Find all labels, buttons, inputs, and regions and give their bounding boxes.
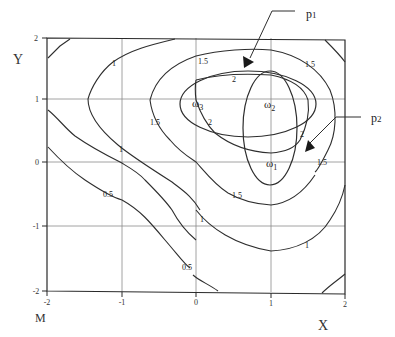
contour-label: 0.5 xyxy=(182,263,192,272)
contour-label: 1 xyxy=(200,215,204,224)
contour-chart: 2 1 0 -1 -2 -2 -1 0 1 2 Y X M xyxy=(0,0,395,337)
p1-annotation: p1 xyxy=(243,7,317,68)
x-tick-neg2: -2 xyxy=(44,298,51,307)
x-tick-neg1: -1 xyxy=(119,298,126,307)
contour-label: 0.5 xyxy=(103,190,113,199)
contour-label: 1.5 xyxy=(305,60,315,69)
x-axis-label: X xyxy=(318,318,328,333)
contour-label: 1.5 xyxy=(317,158,327,167)
contour-label: 2 xyxy=(232,75,236,84)
contour-label: 1.5 xyxy=(232,191,242,200)
corner-label: M xyxy=(35,311,46,325)
contour-label: 1.5 xyxy=(150,118,160,127)
y-tick-neg2: -2 xyxy=(33,287,40,296)
arrow-head-icon xyxy=(305,140,315,152)
omega-2-label: ω2 xyxy=(264,98,275,113)
p2-annotation: p2 xyxy=(305,111,382,152)
contour-label: 1 xyxy=(119,145,123,154)
x-tick-labels: -2 -1 0 1 2 xyxy=(44,298,347,309)
y-tick-1: 1 xyxy=(35,95,39,104)
y-tick-neg1: -1 xyxy=(33,222,40,231)
y-tick-labels: 2 1 0 -1 -2 xyxy=(33,34,40,296)
contour-label: 1 xyxy=(112,59,116,68)
x-tick-0: 0 xyxy=(194,298,198,307)
p1-label: p1 xyxy=(306,7,317,21)
contour-level-labels: 1 1.5 1 0.5 0.5 1.5 1.5 2 2 2 1.5 1.5 1 … xyxy=(103,57,327,272)
p2-label: p2 xyxy=(371,111,382,125)
y-tick-2: 2 xyxy=(34,34,38,43)
gridlines xyxy=(47,38,345,292)
region-labels: ω2 ω3 ω1 xyxy=(192,97,277,172)
y-axis-label: Y xyxy=(13,52,23,67)
omega-1-label: ω1 xyxy=(266,157,277,172)
axis-ticks xyxy=(42,38,345,299)
contour-label: 1.5 xyxy=(198,57,208,66)
contour-lines xyxy=(48,39,345,293)
x-tick-2: 2 xyxy=(343,300,347,309)
contour-label: 2 xyxy=(208,118,212,127)
x-tick-1: 1 xyxy=(269,299,273,308)
y-tick-0: 0 xyxy=(35,158,39,167)
contour-label: 1 xyxy=(305,241,309,250)
contour-label: 2 xyxy=(300,130,304,139)
arrow-head-icon xyxy=(243,56,254,68)
